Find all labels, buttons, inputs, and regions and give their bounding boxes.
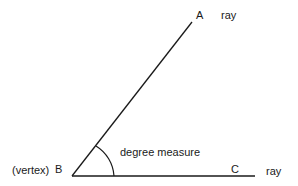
point-label-c: C (231, 164, 239, 175)
point-label-a: A (196, 10, 203, 21)
ray-label-top: ray (221, 10, 236, 21)
angle-arc (96, 146, 114, 176)
point-label-b: B (55, 164, 62, 175)
vertex-label: (vertex) (12, 165, 49, 176)
ray-label-bottom: ray (266, 166, 281, 177)
angle-diagram: A ray degree measure (vertex) B C ray (0, 0, 298, 186)
angle-figure (0, 0, 298, 186)
degree-measure-label: degree measure (120, 147, 200, 158)
